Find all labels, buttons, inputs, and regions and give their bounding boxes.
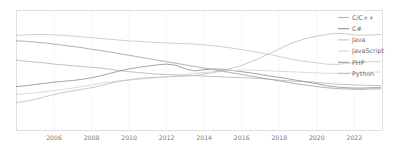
x-axis-tick-labels: 200620082010201220142016201820202022 (46, 134, 362, 141)
legend-label-java: Java (351, 36, 366, 44)
chart-figure: 200620082010201220142016201820202022 C/C… (0, 0, 399, 166)
chart-background (0, 0, 399, 166)
x-tick-2018: 2018 (271, 134, 287, 141)
x-tick-2016: 2016 (234, 134, 250, 141)
x-tick-2014: 2014 (196, 134, 212, 141)
x-tick-2010: 2010 (121, 134, 137, 141)
line-chart: 200620082010201220142016201820202022 C/C… (0, 0, 399, 166)
x-tick-2020: 2020 (309, 134, 325, 141)
legend-label-c: C# (352, 25, 362, 33)
x-tick-2006: 2006 (46, 134, 62, 141)
legend-label-javascript: JavaScript (351, 47, 385, 55)
legend-label-c-c: C/C++ (352, 14, 374, 22)
legend-label-python: Python (352, 70, 374, 78)
x-tick-2012: 2012 (159, 134, 175, 141)
x-tick-2022: 2022 (346, 134, 362, 141)
legend-label-php: PHP (352, 59, 365, 67)
x-tick-2008: 2008 (84, 134, 100, 141)
